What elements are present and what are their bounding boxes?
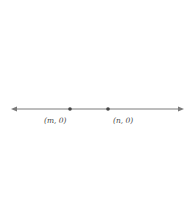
parabola-diagram: (m, 0) (n, 0) [0,0,191,197]
label-m: (m, 0) [44,116,67,125]
point-m-marker [68,107,72,111]
right-arrow-icon [178,107,184,112]
label-n: (n, 0) [113,116,133,125]
point-n-marker [106,107,110,111]
left-arrow-icon [11,107,17,112]
